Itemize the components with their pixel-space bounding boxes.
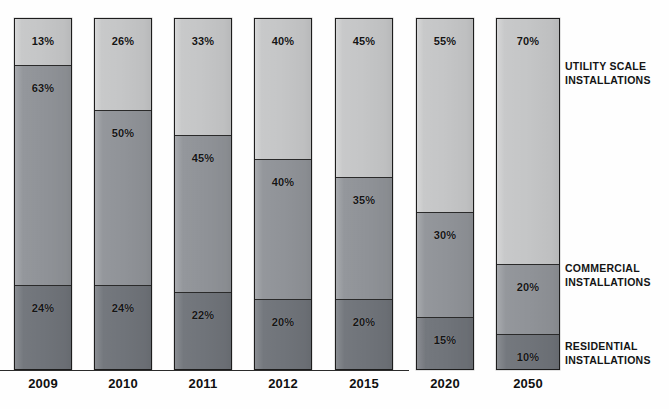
bar-segment-commercial[interactable]: 50% bbox=[95, 110, 151, 285]
bar-segment-utility-scale[interactable]: 33% bbox=[175, 19, 231, 135]
legend-commercial-line1: COMMERCIAL bbox=[565, 262, 651, 276]
bar-segment-residential[interactable]: 24% bbox=[15, 285, 71, 369]
bar-segment-utility-scale[interactable]: 70% bbox=[497, 19, 559, 264]
bar-segment-residential[interactable]: 10% bbox=[497, 334, 559, 369]
segment-value-label: 20% bbox=[497, 282, 559, 293]
segment-value-label: 15% bbox=[417, 335, 473, 346]
bar-segment-utility-scale[interactable]: 26% bbox=[95, 19, 151, 110]
segment-value-label: 40% bbox=[255, 177, 311, 188]
segment-value-label: 50% bbox=[95, 128, 151, 139]
bar-segment-commercial[interactable]: 45% bbox=[175, 135, 231, 293]
bar-group-2011[interactable]: 33%45%22% bbox=[174, 18, 232, 370]
segment-value-label: 45% bbox=[175, 153, 231, 164]
bar-segment-commercial[interactable]: 40% bbox=[255, 159, 311, 299]
year-label-2050: 2050 bbox=[496, 376, 560, 391]
year-label-2009: 2009 bbox=[14, 376, 72, 391]
bar-segment-commercial[interactable]: 35% bbox=[336, 177, 392, 300]
segment-value-label: 13% bbox=[15, 36, 71, 47]
legend-utility-line1: UTILITY SCALE bbox=[565, 60, 651, 74]
segment-value-label: 70% bbox=[497, 36, 559, 47]
bar-group-2009[interactable]: 13%63%24% bbox=[14, 18, 72, 370]
year-label-2015: 2015 bbox=[335, 376, 393, 391]
segment-value-label: 20% bbox=[255, 317, 311, 328]
bar-group-2010[interactable]: 26%50%24% bbox=[94, 18, 152, 370]
bar-segment-utility-scale[interactable]: 13% bbox=[15, 19, 71, 65]
bar-group-2050[interactable]: 70%20%10% bbox=[496, 18, 560, 370]
year-label-2010: 2010 bbox=[94, 376, 152, 391]
bar-segment-utility-scale[interactable]: 45% bbox=[336, 19, 392, 177]
bar-segment-residential[interactable]: 15% bbox=[417, 317, 473, 370]
segment-value-label: 24% bbox=[95, 303, 151, 314]
segment-value-label: 22% bbox=[175, 310, 231, 321]
x-axis-line bbox=[0, 370, 409, 371]
segment-value-label: 35% bbox=[336, 195, 392, 206]
segment-value-label: 20% bbox=[336, 317, 392, 328]
stacked-bar: 13%63%24% bbox=[14, 18, 72, 370]
stacked-bar: 45%35%20% bbox=[335, 18, 393, 370]
segment-value-label: 45% bbox=[336, 36, 392, 47]
bar-segment-utility-scale[interactable]: 55% bbox=[417, 19, 473, 212]
year-label-2020: 2020 bbox=[416, 376, 474, 391]
bar-group-2012[interactable]: 40%40%20% bbox=[254, 18, 312, 370]
bar-segment-residential[interactable]: 22% bbox=[175, 292, 231, 369]
legend-utility-line2: INSTALLATIONS bbox=[565, 74, 651, 88]
bar-segment-utility-scale[interactable]: 40% bbox=[255, 19, 311, 159]
bar-segment-residential[interactable]: 24% bbox=[95, 285, 151, 369]
segment-value-label: 55% bbox=[417, 36, 473, 47]
segment-value-label: 33% bbox=[175, 36, 231, 47]
stacked-bar-chart: 13%63%24%26%50%24%33%45%22%40%40%20%45%3… bbox=[0, 0, 669, 409]
bar-group-2015[interactable]: 45%35%20% bbox=[335, 18, 393, 370]
segment-value-label: 30% bbox=[417, 230, 473, 241]
legend-item-utility-scale: UTILITY SCALE INSTALLATIONS bbox=[565, 60, 651, 87]
segment-value-label: 10% bbox=[497, 352, 559, 363]
legend-commercial-line2: INSTALLATIONS bbox=[565, 276, 651, 290]
segment-value-label: 63% bbox=[15, 83, 71, 94]
year-label-2012: 2012 bbox=[254, 376, 312, 391]
legend-item-residential: RESIDENTIAL INSTALLATIONS bbox=[565, 340, 651, 367]
stacked-bar: 70%20%10% bbox=[496, 18, 560, 370]
stacked-bar: 33%45%22% bbox=[174, 18, 232, 370]
bar-segment-residential[interactable]: 20% bbox=[255, 299, 311, 369]
legend-residential-line2: INSTALLATIONS bbox=[565, 354, 651, 368]
bar-group-2020[interactable]: 55%30%15% bbox=[416, 18, 474, 370]
bar-segment-commercial[interactable]: 63% bbox=[15, 65, 71, 286]
legend-item-commercial: COMMERCIAL INSTALLATIONS bbox=[565, 262, 651, 289]
bar-segment-commercial[interactable]: 20% bbox=[497, 264, 559, 334]
year-label-2011: 2011 bbox=[174, 376, 232, 391]
segment-value-label: 26% bbox=[95, 36, 151, 47]
bar-segment-residential[interactable]: 20% bbox=[336, 299, 392, 369]
stacked-bar: 40%40%20% bbox=[254, 18, 312, 370]
stacked-bar: 26%50%24% bbox=[94, 18, 152, 370]
stacked-bar: 55%30%15% bbox=[416, 18, 474, 370]
segment-value-label: 40% bbox=[255, 36, 311, 47]
segment-value-label: 24% bbox=[15, 303, 71, 314]
legend-residential-line1: RESIDENTIAL bbox=[565, 340, 651, 354]
bar-segment-commercial[interactable]: 30% bbox=[417, 212, 473, 317]
